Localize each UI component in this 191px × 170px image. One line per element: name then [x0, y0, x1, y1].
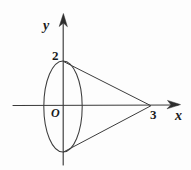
y-axis-label: y	[43, 19, 49, 33]
figure-canvas	[0, 0, 191, 170]
origin-label: O	[51, 107, 60, 119]
x-axis-label: x	[175, 109, 182, 123]
cone-upper-slant-line	[64, 62, 151, 106]
y-intercept-label-2: 2	[52, 49, 59, 62]
x-intercept-label-3: 3	[150, 108, 157, 121]
cone-lower-slant-line	[64, 106, 151, 152]
x-axis-line	[13, 105, 178, 106]
cone-diagram-figure: y x 2 3 O	[0, 0, 191, 170]
